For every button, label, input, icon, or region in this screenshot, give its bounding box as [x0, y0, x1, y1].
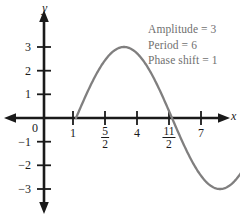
- origin-label: 0: [32, 122, 38, 134]
- y-tick-label-2: 2: [6, 65, 31, 77]
- fraction-denominator: 2: [162, 139, 175, 150]
- x-tick-label-4: 4: [134, 127, 140, 139]
- x-axis-right-arrow-icon: [218, 113, 230, 123]
- trigonometric-graph-figure: Amplitude = 3 Period = 6 Phase shift = 1…: [0, 0, 240, 216]
- y-tick-label-minus-1: −1: [4, 136, 31, 148]
- fraction-5-2: 5 2: [101, 126, 109, 149]
- y-axis-bottom-arrow-icon: [39, 202, 49, 214]
- annotation-period: Period = 6: [148, 38, 240, 54]
- y-axis: [39, 10, 49, 214]
- x-tick-label-5-over-2: 5 2: [101, 126, 109, 150]
- annotation-phase-shift: Phase shift = 1: [148, 53, 240, 69]
- y-tick-label-1: 1: [6, 88, 31, 100]
- fraction-11-2: 11 2: [162, 126, 175, 149]
- y-tick-label-minus-3: −3: [4, 183, 31, 195]
- y-tick-label-3: 3: [6, 41, 31, 53]
- fraction-denominator: 2: [101, 139, 109, 150]
- y-axis-label: y: [42, 2, 47, 14]
- annotation-block: Amplitude = 3 Period = 6 Phase shift = 1: [148, 22, 240, 69]
- x-tick-label-11-over-2: 11 2: [162, 126, 175, 150]
- x-tick-label-1: 1: [70, 127, 76, 139]
- annotation-amplitude: Amplitude = 3: [148, 22, 240, 38]
- x-tick-label-7: 7: [198, 127, 204, 139]
- x-axis-left-arrow-icon: [4, 113, 16, 123]
- x-axis-label: x: [231, 110, 236, 122]
- fraction-numerator: 5: [101, 126, 109, 137]
- y-tick-label-minus-2: −2: [4, 159, 31, 171]
- fraction-numerator: 11: [162, 126, 175, 137]
